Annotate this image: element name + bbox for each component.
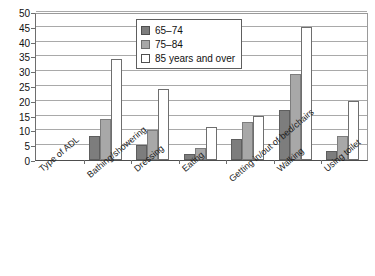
bar-chart-figure: 05101520253035404550 Type of ADLBathing/… xyxy=(0,0,375,276)
y-axis-tick-label: 25 xyxy=(0,82,30,93)
bar xyxy=(231,139,242,160)
legend-item-label: 75–84 xyxy=(155,39,183,50)
y-axis-tick-label: 45 xyxy=(0,23,30,34)
legend-item: 65–74 xyxy=(141,23,235,37)
y-axis-tick-label: 20 xyxy=(0,97,30,108)
y-axis-tick-label: 35 xyxy=(0,52,30,63)
bar xyxy=(301,27,312,160)
legend-item: 75–84 xyxy=(141,37,235,51)
y-axis-tick-label: 0 xyxy=(0,156,30,167)
y-axis-tick-label: 50 xyxy=(0,8,30,19)
x-axis-labels: Type of ADLBathing/showeringDressingEati… xyxy=(35,162,368,276)
chart-legend: 65–74 75–84 85 years and over xyxy=(136,19,242,69)
legend-item: 85 years and over xyxy=(141,51,235,65)
legend-swatch-icon xyxy=(141,54,150,63)
gridline xyxy=(36,11,367,12)
bar xyxy=(206,127,217,160)
y-axis-tick-label: 10 xyxy=(0,126,30,137)
bar xyxy=(89,136,100,160)
y-axis-tick-label: 40 xyxy=(0,38,30,49)
bar-group xyxy=(321,14,369,160)
legend-swatch-icon xyxy=(141,26,150,35)
legend-item-label: 65–74 xyxy=(155,25,183,36)
legend-item-label: 85 years and over xyxy=(155,53,235,64)
legend-swatch-icon xyxy=(141,40,150,49)
y-axis: 05101520253035404550 xyxy=(0,7,30,159)
y-axis-tick-label: 5 xyxy=(0,141,30,152)
y-axis-tick-label: 30 xyxy=(0,67,30,78)
y-axis-tick-label: 15 xyxy=(0,112,30,123)
